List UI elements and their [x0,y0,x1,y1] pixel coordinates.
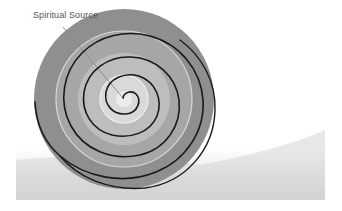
spiral-diagram: Spiritual Source [0,0,342,211]
spiral-graphic [0,0,342,211]
spiritual-source-label: Spiritual Source [33,10,98,20]
